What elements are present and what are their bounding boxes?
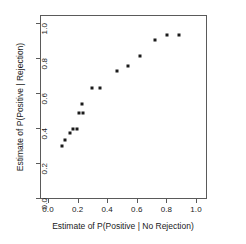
x-tick-label: 0.2 (72, 205, 83, 214)
x-tick-label: 0.6 (131, 205, 142, 214)
plot-data-area (41, 16, 206, 198)
data-point (76, 128, 79, 131)
data-point (72, 128, 75, 131)
data-point (165, 33, 168, 36)
x-tick-mark (107, 199, 108, 203)
y-tick-label: 0.4 (40, 128, 49, 139)
x-tick-mark (196, 199, 197, 203)
data-point (61, 144, 64, 147)
data-point (99, 86, 102, 89)
scatter-plot-figure: 0.00.20.40.60.81.0 0.00.20.40.60.81.0 Es… (0, 0, 246, 244)
data-point (177, 33, 180, 36)
data-point (81, 102, 84, 105)
x-tick-label: 0.8 (161, 205, 172, 214)
data-point (82, 112, 85, 115)
y-tick-label: 1.0 (40, 23, 49, 34)
plot-frame (40, 15, 207, 199)
y-tick-label: 0.2 (40, 163, 49, 174)
y-axis-label: Estimate of P(Positive | Rejection) (14, 15, 26, 199)
data-point (78, 112, 81, 115)
y-tick-label: 0.6 (40, 93, 49, 104)
data-point (90, 86, 93, 89)
data-point (63, 139, 66, 142)
data-point (69, 132, 72, 135)
data-point (116, 70, 119, 73)
x-tick-mark (137, 199, 138, 203)
y-tick-label: 0.0 (40, 198, 49, 209)
data-point (153, 38, 156, 41)
x-tick-mark (78, 199, 79, 203)
data-point (139, 54, 142, 57)
x-tick-mark (166, 199, 167, 203)
data-point (127, 65, 130, 68)
y-tick-label: 0.8 (40, 58, 49, 69)
x-tick-label: 1.0 (190, 205, 201, 214)
x-axis-label: Estimate of P(Positive | No Rejection) (0, 221, 246, 231)
x-tick-label: 0.4 (101, 205, 112, 214)
